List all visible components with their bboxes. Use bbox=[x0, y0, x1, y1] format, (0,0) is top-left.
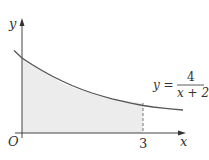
x-tick-label-3: 3 bbox=[139, 136, 147, 151]
y-axis-arrow-icon bbox=[20, 18, 25, 26]
equation-lhs: y = bbox=[152, 78, 174, 92]
y-axis-label: y bbox=[8, 16, 17, 31]
graph-canvas: y O 3 x y = 4 x + 2 bbox=[0, 0, 209, 160]
origin-label: O bbox=[8, 134, 19, 149]
equation-denominator: x + 2 bbox=[177, 86, 209, 100]
equation-numerator: 4 bbox=[187, 70, 195, 84]
x-axis-label: x bbox=[180, 134, 188, 149]
